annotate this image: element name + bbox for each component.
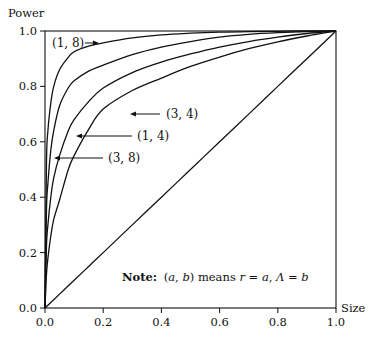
x-axis-title: Size	[341, 301, 366, 315]
x-tick-label: 0.0	[36, 315, 54, 329]
x-tick-label: 0.8	[269, 315, 287, 329]
y-axis-ticks: 0.00.20.40.60.81.0	[19, 24, 45, 315]
y-tick-label: 0.6	[19, 135, 37, 149]
y-tick-label: 1.0	[19, 24, 37, 38]
y-tick-label: 0.8	[19, 79, 37, 93]
label-3-8: (3, 8)	[108, 151, 140, 165]
curve-diagonal-power-size	[45, 31, 336, 308]
annotation-1-8: (1, 8)	[52, 36, 99, 50]
x-axis-ticks: 0.00.20.40.60.81.0	[36, 308, 345, 329]
y-axis-title: Power	[8, 6, 45, 20]
x-tick-label: 0.6	[210, 315, 228, 329]
label-3-4: (3, 4)	[166, 107, 198, 121]
annotation-3-4: (3, 4)	[130, 107, 198, 121]
label-1-4: (1, 4)	[137, 129, 169, 143]
y-tick-label: 0.4	[19, 190, 37, 204]
arrowhead-icon	[54, 156, 60, 161]
x-tick-label: 0.2	[94, 315, 112, 329]
power-size-chart: 0.00.20.40.60.81.0 0.00.20.40.60.81.0 Po…	[0, 0, 376, 341]
power-curves	[45, 31, 336, 308]
x-tick-label: 1.0	[327, 315, 345, 329]
annotation-3-8: (3, 8)	[54, 151, 140, 165]
y-tick-label: 0.2	[19, 246, 37, 260]
arrowhead-icon	[76, 134, 82, 139]
label-1-8: (1, 8)	[52, 36, 84, 50]
arrowhead-icon	[130, 112, 136, 117]
annotation-1-4: (1, 4)	[76, 129, 169, 143]
note-text: Note: (a, b) means r = a, Λ = b	[122, 270, 309, 284]
x-tick-label: 0.4	[152, 315, 170, 329]
y-tick-label: 0.0	[19, 301, 37, 315]
